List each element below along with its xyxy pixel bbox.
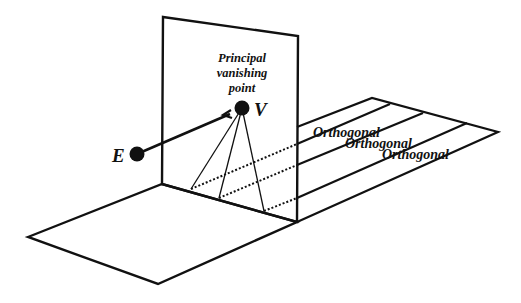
label-point: point — [228, 81, 256, 95]
picture-plane — [162, 17, 298, 222]
diagram-canvas: Principal vanishing point E V Orthogonal… — [0, 0, 521, 303]
eye-point-E — [130, 147, 145, 162]
label-V: V — [254, 99, 268, 120]
perspective-diagram: Principal vanishing point E V Orthogonal… — [0, 0, 521, 303]
label-orthogonal-3: Orthogonal — [382, 147, 449, 162]
vanishing-point-V — [235, 101, 250, 116]
label-E: E — [111, 145, 125, 166]
label-principal: Principal — [218, 51, 266, 65]
label-vanishing: vanishing — [217, 66, 268, 80]
